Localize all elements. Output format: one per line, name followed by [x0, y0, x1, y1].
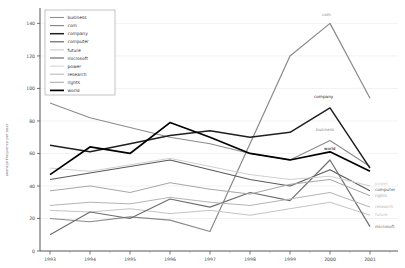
series-label-company: company [314, 94, 334, 99]
x-tick-label: 1994 [84, 257, 96, 262]
y-tick-label: 80 [29, 119, 35, 124]
y-tick-label: 60 [29, 151, 35, 156]
series-label-business: business [316, 127, 334, 132]
y-tick-label: 120 [26, 54, 35, 59]
x-tick-label: 2001 [364, 257, 376, 262]
y-tick-label: 20 [29, 216, 35, 221]
legend-item-future: future [68, 48, 82, 53]
legend-item-business: business [68, 15, 88, 20]
line-chart: 0204060801001201401993199419951996199719… [0, 0, 405, 268]
x-tick-label: 2000 [324, 257, 336, 262]
y-tick-label: 100 [26, 86, 35, 91]
x-tick-label: 1993 [44, 257, 56, 262]
legend-item-research: research [68, 72, 87, 77]
x-tick-label: 1996 [164, 257, 176, 262]
series-label-power: power [375, 181, 388, 186]
x-tick-label: 1998 [244, 257, 256, 262]
legend-item-computer: computer [68, 39, 89, 44]
series-label-microsoft: microsoft [375, 224, 395, 229]
figure-canvas: 0204060801001201401993199419951996199719… [0, 0, 405, 268]
legend-item-world: world [68, 88, 80, 93]
legend-item-company: company [68, 31, 89, 36]
y-axis-title: average frequency per year [5, 123, 9, 176]
x-tick-label: 1997 [204, 257, 216, 262]
series-label-world: world [324, 146, 336, 151]
legend-item-power: power [68, 64, 82, 69]
series-label-com: com [322, 12, 331, 17]
series-line-research [50, 192, 370, 207]
legend-item-microsoft: microsoft [68, 56, 89, 61]
y-tick-label: 40 [29, 184, 35, 189]
series-label-future: future [375, 212, 388, 217]
series-label-research: research [375, 204, 393, 209]
series-label-rights: rights [375, 193, 387, 198]
series-label-computer: computer [375, 187, 395, 192]
x-tick-label: 1999 [284, 257, 296, 262]
legend-item-com: com [68, 23, 77, 28]
legend-item-rights: rights [68, 80, 81, 85]
y-tick-label: 140 [26, 21, 35, 26]
y-tick-label: 0 [32, 249, 35, 254]
x-tick-label: 1995 [124, 257, 136, 262]
